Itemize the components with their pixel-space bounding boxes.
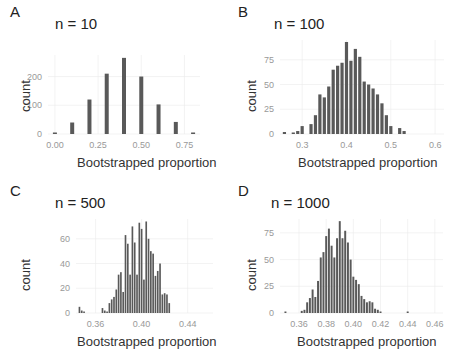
histogram-bar xyxy=(371,302,373,313)
x-tick-label: 0.40 xyxy=(345,319,363,329)
histogram-plot: 02040600.360.400.44 xyxy=(0,179,226,358)
histogram-bar xyxy=(127,244,129,313)
histogram-bar xyxy=(301,126,304,134)
y-tick-label: 50 xyxy=(264,80,274,90)
x-tick-label: 0.4 xyxy=(340,140,353,150)
histogram-bar xyxy=(122,58,126,134)
histogram-bar xyxy=(145,221,147,313)
histogram-bar xyxy=(407,312,409,314)
x-tick-label: 0.46 xyxy=(426,319,444,329)
histogram-bar xyxy=(345,42,348,134)
histogram-bar xyxy=(336,66,339,134)
histogram-bar xyxy=(377,310,379,313)
histogram-bar xyxy=(369,301,371,313)
y-tick-label: 0 xyxy=(269,308,274,318)
histogram-bar xyxy=(174,122,178,134)
histogram-bar xyxy=(363,299,365,313)
histogram-bar xyxy=(380,103,383,134)
histogram-bar xyxy=(333,257,335,313)
histogram-bar xyxy=(327,87,330,134)
histogram-bar xyxy=(132,226,134,313)
histogram-bar xyxy=(157,271,159,313)
histogram-bar xyxy=(355,280,357,313)
histogram-bar xyxy=(81,311,83,313)
histogram-bar xyxy=(403,131,406,134)
x-tick-label: 0.40 xyxy=(133,319,151,329)
x-axis-label: Bootstrapped proportion xyxy=(77,334,216,349)
histogram-bar xyxy=(347,243,349,314)
histogram-bar xyxy=(162,294,164,313)
histogram-bar xyxy=(363,82,366,134)
histogram-bar xyxy=(306,302,308,313)
histogram-bar xyxy=(385,115,388,134)
panel-a: A n = 10 01002000.000.250.500.75 count B… xyxy=(0,0,226,179)
histogram-bar xyxy=(398,128,401,134)
histogram-bar xyxy=(53,133,57,135)
y-tick-label: 0 xyxy=(269,129,274,139)
histogram-bar xyxy=(109,303,111,313)
x-tick-label: 0.50 xyxy=(133,140,151,150)
histogram-bar xyxy=(150,251,152,313)
histogram-bar xyxy=(104,311,106,313)
histogram-bar xyxy=(129,275,131,313)
x-tick-label: 0.44 xyxy=(399,319,417,329)
histogram-bar xyxy=(125,235,127,313)
x-axis-label: Bootstrapped proportion xyxy=(298,155,437,170)
x-tick-label: 0.25 xyxy=(89,140,107,150)
y-axis-label: count xyxy=(244,80,259,112)
histogram-bar xyxy=(322,252,324,313)
histogram-bar xyxy=(168,303,170,313)
histogram-bar xyxy=(105,74,109,134)
histogram-bar xyxy=(328,229,330,313)
histogram-bar xyxy=(83,312,85,314)
histogram-bar xyxy=(102,308,104,313)
histogram-bar xyxy=(366,302,368,313)
x-tick-label: 0.75 xyxy=(176,140,194,150)
x-tick-label: 0.00 xyxy=(46,140,64,150)
panel-c: C n = 500 02040600.360.400.44 count Boot… xyxy=(0,179,226,358)
histogram-bar xyxy=(118,275,120,313)
histogram-bar xyxy=(106,312,108,314)
x-tick-label: 0.42 xyxy=(372,319,390,329)
histogram-bar xyxy=(336,238,338,313)
x-tick-label: 0.3 xyxy=(296,140,309,150)
histogram-bar xyxy=(134,243,136,314)
panel-b: B n = 100 02550750.30.40.50.6 count Boot… xyxy=(226,0,452,179)
y-axis-label: count xyxy=(18,80,33,112)
y-tick-label: 25 xyxy=(264,281,274,291)
x-axis-label: Bootstrapped proportion xyxy=(297,334,436,349)
histogram-bar xyxy=(139,77,143,134)
histogram-bar xyxy=(120,272,122,313)
histogram-bar xyxy=(113,297,115,313)
histogram-bar xyxy=(148,239,150,313)
histogram-bar xyxy=(143,280,145,313)
histogram-bar xyxy=(284,312,286,314)
y-tick-label: 75 xyxy=(264,55,274,65)
histogram-bar xyxy=(283,132,286,134)
histogram-bar xyxy=(87,100,91,134)
histogram-bar xyxy=(374,309,376,313)
histogram-bar xyxy=(376,94,379,134)
histogram-bar xyxy=(70,123,74,134)
histogram-bar xyxy=(312,290,314,314)
x-axis-label: Bootstrapped proportion xyxy=(77,155,216,170)
y-tick-label: 75 xyxy=(264,228,274,238)
histogram-bar xyxy=(331,246,333,313)
histogram-plot: 01002000.000.250.500.75 xyxy=(0,0,226,179)
histogram-bar xyxy=(292,133,295,135)
histogram-bar xyxy=(340,63,343,134)
histogram-bar xyxy=(320,257,322,313)
histogram-bar xyxy=(314,297,316,313)
panel-d: D n = 1000 02550750.360.380.400.420.440.… xyxy=(226,179,452,358)
histogram-bar xyxy=(323,97,326,134)
histogram-bar xyxy=(122,292,124,313)
histogram-bar xyxy=(361,296,363,313)
histogram-bar xyxy=(342,238,344,313)
histogram-bar xyxy=(157,104,161,134)
histogram-bar xyxy=(380,312,382,314)
histogram-bar xyxy=(111,299,113,313)
histogram-bar xyxy=(352,277,354,313)
histogram-bar xyxy=(314,115,317,134)
y-tick-label: 20 xyxy=(60,283,70,293)
y-axis-label: count xyxy=(18,259,33,291)
